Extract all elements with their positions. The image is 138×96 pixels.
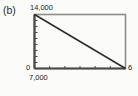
data-series-line <box>35 15 126 69</box>
plot-area <box>0 0 138 96</box>
figure-panel-b: (b) 14,000 0 7,000 6 <box>0 0 138 96</box>
